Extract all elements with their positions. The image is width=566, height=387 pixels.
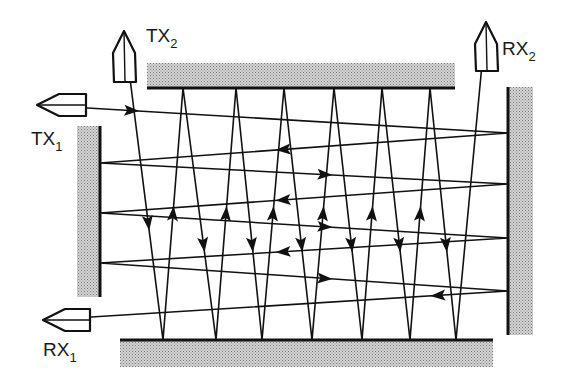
wall-left	[77, 126, 100, 297]
svg-text:RX2: RX2	[502, 38, 536, 64]
label-tx2: TX2	[146, 25, 178, 51]
label-tx1: TX1	[31, 128, 63, 154]
label-rx2: RX2	[502, 38, 536, 64]
wall-bottom	[120, 340, 493, 367]
wall-top	[147, 63, 455, 88]
svg-text:RX1: RX1	[43, 339, 77, 365]
multipath-diagram: TX2 TX1 RX2 RX1	[0, 0, 566, 387]
label-rx1: RX1	[43, 339, 77, 365]
wall-right	[508, 87, 533, 335]
svg-text:TX2: TX2	[146, 25, 178, 51]
svg-text:TX1: TX1	[31, 128, 63, 154]
